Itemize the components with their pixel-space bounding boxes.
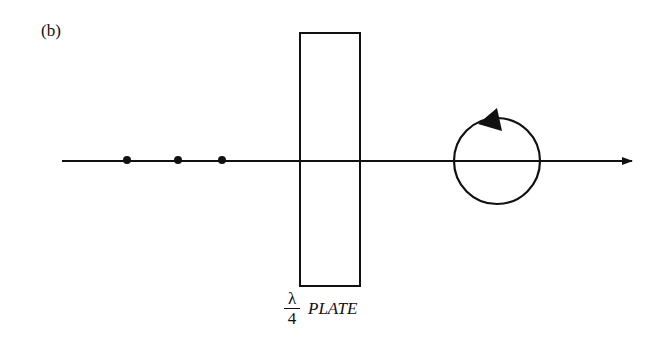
fraction-numerator: λ	[284, 290, 300, 307]
linear-polarization-dot	[218, 156, 226, 164]
polarization-diagram	[0, 0, 658, 348]
fraction-denominator: 4	[284, 310, 300, 327]
plate-label: PLATE	[308, 299, 357, 319]
rotation-arrowhead-icon	[478, 108, 502, 131]
lambda-over-four: λ 4	[284, 290, 300, 327]
linear-polarization-dot	[174, 156, 182, 164]
linear-polarization-dot	[123, 156, 131, 164]
quarter-wave-plate	[300, 33, 360, 286]
